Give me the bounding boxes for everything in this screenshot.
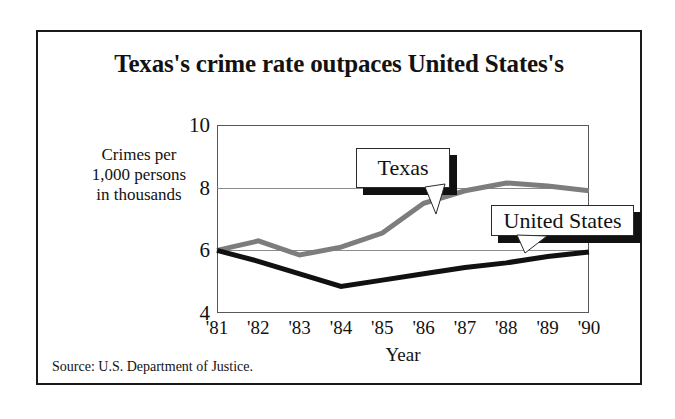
x-tick-label-1990: '90 (578, 318, 600, 337)
x-tick-label-1986: '86 (412, 318, 434, 337)
x-tick-label-1981: '81 (206, 318, 228, 337)
y-tick-label-6: 6 (200, 240, 211, 261)
x-tick-label-1987: '87 (454, 318, 476, 337)
callout-united-states-tail (217, 125, 589, 313)
x-tick-label-1984: '84 (330, 318, 352, 337)
y-axis-caption: Crimes per 1,000 persons in thousands (64, 145, 214, 205)
x-tick-label-1985: '85 (371, 318, 393, 337)
y-axis-caption-line-3: in thousands (64, 185, 214, 205)
x-tick-label-1989: '89 (536, 318, 558, 337)
y-axis-caption-line-2: 1,000 persons (64, 165, 214, 185)
chart-figure: Texas's crime rate outpaces United State… (0, 0, 675, 419)
source-note: Source: U.S. Department of Justice. (52, 359, 253, 375)
x-axis-title: Year (217, 344, 589, 366)
x-tick-label-1988: '88 (495, 318, 517, 337)
plot-area: 46810 '81'82'83'84'85'86'87'88'89'90 Tex… (217, 125, 589, 313)
y-axis-caption-line-1: Crimes per (64, 145, 214, 165)
chart-title: Texas's crime rate outpaces United State… (38, 50, 640, 78)
x-tick-label-1983: '83 (288, 318, 310, 337)
y-tick-label-8: 8 (200, 177, 211, 198)
figure-border: Texas's crime rate outpaces United State… (36, 30, 642, 385)
x-tick-label-1982: '82 (247, 318, 269, 337)
y-tick-label-10: 10 (189, 115, 210, 136)
